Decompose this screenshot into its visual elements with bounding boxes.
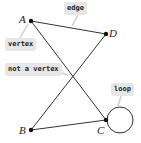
vertex-label-b: B <box>19 124 26 136</box>
vertex-b <box>29 128 33 132</box>
vertex-annotation: vertex <box>5 38 36 51</box>
vertex-a <box>29 19 33 23</box>
loop-c <box>107 107 133 133</box>
vertex-label-d: D <box>109 27 117 39</box>
graph-diagram: A D B C edge vertex not a vertex loop <box>0 0 141 143</box>
vertex-d <box>104 32 108 36</box>
edge-a-d <box>31 21 106 34</box>
edge-d-b <box>31 34 106 130</box>
vertex-label-c: C <box>97 124 104 136</box>
not-a-vertex-annotation: not a vertex <box>5 63 62 76</box>
edge-b-c <box>31 120 106 130</box>
vertex-label-a: A <box>19 13 26 25</box>
edge-annotation: edge <box>64 2 87 15</box>
loop-annotation: loop <box>111 83 134 96</box>
vertex-c <box>104 118 108 122</box>
